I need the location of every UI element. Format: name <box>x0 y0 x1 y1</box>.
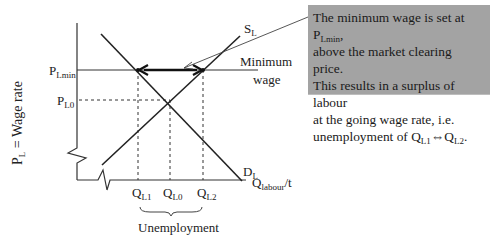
double-arrow-icon: ⇔ <box>431 129 444 144</box>
supply-label: SL <box>244 22 257 35</box>
callout-line-4: at the going wage rate, i.e. <box>313 111 485 128</box>
q1-label: QL1 <box>132 186 151 199</box>
minimum-wage-label-line1: Minimum <box>240 55 292 68</box>
y-axis-label: PL = Wage rate <box>10 81 27 165</box>
demand-curve <box>101 34 242 181</box>
callout-line-3: This results in a surplus of labour <box>313 77 485 111</box>
q1-point <box>136 68 140 72</box>
callout-line-5: unemployment of QL1⇔QL2. <box>313 128 485 145</box>
explanation-callout: The minimum wage is set at PLmin, above … <box>308 5 490 95</box>
q0-label: QL0 <box>163 186 182 199</box>
x-axis-label: Qlabour/t <box>252 176 292 189</box>
unemployment-label: Unemployment <box>138 221 219 234</box>
callout-line-2: above the market clearing price. <box>313 43 485 77</box>
callout-line-1: The minimum wage is set at PLmin, <box>313 9 485 43</box>
x-axis <box>77 170 246 190</box>
q2-point <box>201 68 205 72</box>
unemployment-brace <box>140 207 202 216</box>
demand-label: DL <box>243 165 258 178</box>
minimum-wage-label-line2: wage <box>253 73 280 86</box>
q2-label: QL2 <box>197 186 216 199</box>
callout-pointer-head-icon <box>184 62 193 69</box>
pmin-label: PLmin <box>49 64 76 77</box>
p0-label: PL0 <box>57 94 74 107</box>
